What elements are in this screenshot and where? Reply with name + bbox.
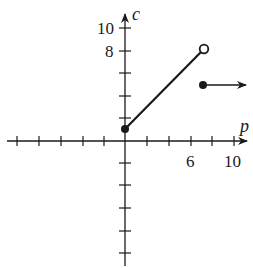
open-endpoint: [200, 45, 209, 54]
y-tick-label-8: 8: [105, 42, 114, 61]
closed-endpoint-ray: [199, 81, 207, 89]
piecewise-graph: c p 10 8 6 10: [0, 0, 253, 268]
x-axis-label: p: [238, 116, 249, 136]
x-tick-label-6: 6: [186, 152, 195, 171]
y-axis-label: c: [132, 4, 140, 24]
x-tick-label-10: 10: [224, 152, 241, 171]
closed-endpoint-start: [121, 125, 129, 133]
y-tick-label-10: 10: [97, 19, 114, 38]
segment-1-line: [125, 52, 201, 129]
